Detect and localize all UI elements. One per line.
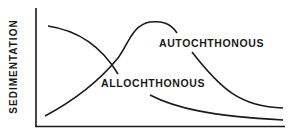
allochthonous-label: ALLOCHTHONOUS [101,77,205,89]
y-axis-label: SEDIMENTATION [6,12,20,120]
y-axis-label-text: SEDIMENTATION [8,19,19,113]
autochthonous-label: AUTOCHTHONOUS [159,37,264,49]
sedimentation-diagram [0,0,297,137]
